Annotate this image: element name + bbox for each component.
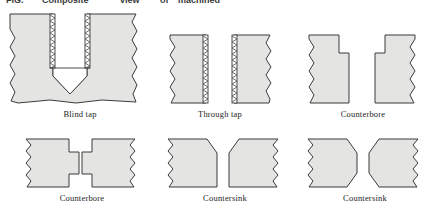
cropped-title-text: FIG. <box>6 0 24 5</box>
panel-countersink-both <box>303 136 427 190</box>
caption-countersink-top: Countersink <box>185 194 265 203</box>
caption-blind-tap: Blind tap <box>40 110 120 119</box>
caption-counterbore-both: Counterbore <box>42 194 122 203</box>
panel-countersink-top <box>163 136 287 190</box>
caption-counterbore-top: Counterbore <box>323 110 403 119</box>
cropped-title-text-2: Composite <box>42 0 89 5</box>
panel-blind-tap <box>6 10 144 106</box>
cropped-title-text-5: machined <box>178 0 220 5</box>
cropped-title-text-3: view <box>120 0 140 5</box>
panel-counterbore-both <box>21 136 145 190</box>
caption-through-tap: Through tap <box>180 110 260 119</box>
caption-countersink-both: Countersink <box>325 194 405 203</box>
panel-through-tap <box>162 31 278 107</box>
machined-holes-figure: FIG. Composite view of machined Blind ta… <box>0 0 430 213</box>
cropped-title-strip: FIG. Composite view of machined <box>0 0 430 7</box>
panel-counterbore-top <box>303 31 425 107</box>
cropped-title-text-4: of <box>160 0 169 5</box>
